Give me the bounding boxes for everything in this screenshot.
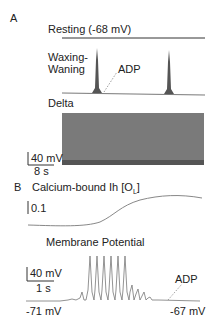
scalebar-a-y: 40 mV [31, 153, 63, 164]
membrane-title: Membrane Potential [46, 237, 144, 248]
scalebar-a-x: 8 s [34, 166, 49, 177]
panel-b-label: B [14, 182, 21, 193]
scalebar-b-x: 1 s [36, 283, 51, 294]
delta-trace [62, 113, 204, 165]
adp-pointer [104, 72, 117, 92]
panel-a-label: A [10, 13, 17, 24]
start-voltage-label: -71 mV [26, 306, 61, 317]
delta-title: Delta [48, 98, 74, 109]
calcium-title: Calcium-bound Ih [OL] [32, 182, 140, 195]
waxing-title-line2: Waning [48, 64, 85, 75]
adp-pointer-b [168, 284, 182, 300]
waxing-title-line1: Waxing- [48, 52, 88, 63]
calcium-ih-trace [28, 196, 202, 226]
resting-title: Resting (-68 mV) [48, 24, 131, 35]
adp-annotation-a: ADP [118, 64, 141, 75]
adp-annotation-b: ADP [175, 274, 198, 285]
end-voltage-label: -67 mV [170, 306, 205, 317]
scalebar-b-y: 40 mV [30, 268, 62, 279]
calcium-scale-label: 0.1 [31, 203, 46, 214]
